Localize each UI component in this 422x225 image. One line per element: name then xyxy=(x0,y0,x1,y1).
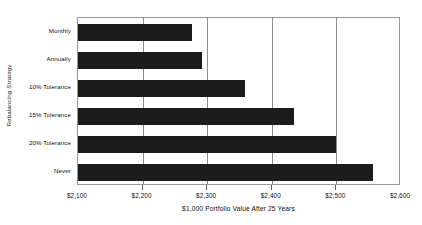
y-axis-title-text: Rebalancing Strategy xyxy=(5,64,12,126)
x-axis-tick-label: $2,600 xyxy=(377,191,422,201)
x-axis-tick-mark xyxy=(271,185,272,190)
gridline xyxy=(207,18,208,184)
x-axis-tick-label: $2,400 xyxy=(248,191,294,201)
x-axis-tick-mark xyxy=(142,185,143,190)
y-axis-tick-labels: MonthlyAnnually10% Tolerance15% Toleranc… xyxy=(16,17,74,185)
x-axis-tick-label: $2,300 xyxy=(183,191,229,201)
gridline xyxy=(143,18,144,184)
y-axis-tick-label: 10% Tolerance xyxy=(29,82,71,92)
bar xyxy=(78,108,294,125)
y-axis-tick-label: Monthly xyxy=(49,26,71,36)
bar xyxy=(78,24,192,41)
x-axis-tick-mark xyxy=(206,185,207,190)
gridline xyxy=(336,18,337,184)
x-axis-tick-label: $2,100 xyxy=(54,191,100,201)
y-axis-tick-label: Annually xyxy=(46,54,71,64)
bar-chart-figure: Rebalancing Strategy MonthlyAnnually10% … xyxy=(0,0,422,225)
x-axis-title: $1,000 Portfolio Value After 25 Years xyxy=(77,204,400,214)
bar xyxy=(78,52,202,69)
plot-area xyxy=(77,17,400,185)
x-axis-tick-label: $2,500 xyxy=(312,191,358,201)
bar xyxy=(78,136,336,153)
y-axis-title: Rebalancing Strategy xyxy=(0,0,16,190)
gridline xyxy=(272,18,273,184)
x-axis-tick-mark xyxy=(335,185,336,190)
y-axis-tick-label: 15% Tolerance xyxy=(29,110,71,120)
bar xyxy=(78,80,245,97)
x-axis-tick-label: $2,200 xyxy=(119,191,165,201)
bar xyxy=(78,164,373,181)
x-axis-tick-labels: $2,100$2,200$2,300$2,400$2,500$2,600 xyxy=(0,191,422,203)
y-axis-tick-label: 20% Tolerance xyxy=(29,138,71,148)
y-axis-tick-label: Never xyxy=(54,166,71,176)
x-axis-tick-marks xyxy=(77,185,400,190)
